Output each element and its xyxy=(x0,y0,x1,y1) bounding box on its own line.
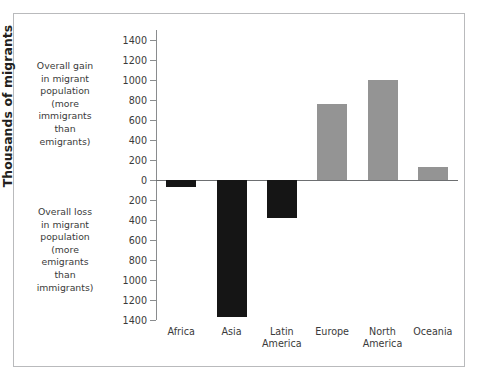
y-tick-label: 0 xyxy=(107,176,147,186)
y-tick xyxy=(150,100,156,101)
y-tick xyxy=(150,280,156,281)
annotation-loss-line: immigrants) xyxy=(17,282,113,295)
y-tick-label: 1200 xyxy=(107,296,147,306)
bar-asia xyxy=(217,180,247,317)
y-tick xyxy=(150,200,156,201)
y-tick xyxy=(150,80,156,81)
y-tick xyxy=(150,120,156,121)
y-tick-label: 1200 xyxy=(107,56,147,66)
annotation-gain-line: than xyxy=(17,123,113,136)
y-tick-label: 800 xyxy=(107,256,147,266)
annotation-loss-line: emigrants xyxy=(17,256,113,269)
y-tick-label: 800 xyxy=(107,96,147,106)
y-tick-label: 600 xyxy=(107,236,147,246)
y-tick xyxy=(150,180,156,181)
y-tick xyxy=(150,300,156,301)
bar-north-america xyxy=(368,80,398,180)
plot-area: 1400120010008006004002000200400600800100… xyxy=(156,30,458,320)
y-tick xyxy=(150,240,156,241)
y-tick-label: 600 xyxy=(107,116,147,126)
zero-baseline xyxy=(156,180,458,181)
x-axis-label-line: Oceania xyxy=(398,326,468,338)
annotation-overall-gain: Overall gainin migrantpopulation(moreimm… xyxy=(17,60,113,148)
y-tick xyxy=(150,40,156,41)
annotation-loss-line: in migrant xyxy=(17,219,113,232)
y-tick-label: 1400 xyxy=(107,316,147,326)
y-tick xyxy=(150,260,156,261)
annotation-gain-line: (more xyxy=(17,98,113,111)
annotation-gain-line: in migrant xyxy=(17,73,113,86)
y-tick-label: 1400 xyxy=(107,36,147,46)
y-tick-label: 1000 xyxy=(107,276,147,286)
annotation-gain-line: immigrants xyxy=(17,110,113,123)
annotation-loss-line: Overall loss xyxy=(17,206,113,219)
annotation-gain-line: Overall gain xyxy=(17,60,113,73)
y-axis-line xyxy=(156,30,157,320)
bar-latin-america xyxy=(267,180,297,218)
bar-europe xyxy=(317,104,347,180)
y-tick-label: 200 xyxy=(107,196,147,206)
y-tick-label: 400 xyxy=(107,216,147,226)
annotation-gain-line: emigrants) xyxy=(17,136,113,149)
bar-africa xyxy=(166,180,196,187)
x-axis-label-line: America xyxy=(247,338,317,350)
y-tick xyxy=(150,220,156,221)
chart-page: Overall gainin migrantpopulation(moreimm… xyxy=(0,0,479,383)
annotation-loss-line: (more xyxy=(17,244,113,257)
annotation-loss-line: population xyxy=(17,231,113,244)
annotation-overall-loss: Overall lossin migrantpopulation(moreemi… xyxy=(17,206,113,294)
y-axis-title: Thousands of migrants xyxy=(0,6,18,206)
annotation-loss-line: than xyxy=(17,269,113,282)
bar-oceania xyxy=(418,167,448,180)
x-axis-label-line: America xyxy=(348,338,418,350)
y-tick xyxy=(150,160,156,161)
annotation-gain-line: population xyxy=(17,85,113,98)
y-tick xyxy=(150,60,156,61)
y-tick-label: 400 xyxy=(107,136,147,146)
y-tick xyxy=(150,140,156,141)
x-axis-label-oceania: Oceania xyxy=(398,326,468,338)
y-tick-label: 1000 xyxy=(107,76,147,86)
y-tick-label: 200 xyxy=(107,156,147,166)
y-tick xyxy=(150,320,156,321)
